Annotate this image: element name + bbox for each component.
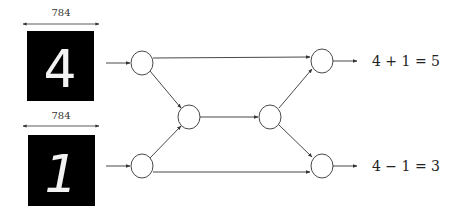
node-D [259,105,281,129]
node-B [131,154,153,178]
node-A [131,51,153,75]
output-equation-sum: 4 + 1 = 5 [372,53,440,69]
dimension-label-top: 784 [51,7,70,18]
output-equation-difference: 4 − 1 = 3 [372,158,440,174]
edge-D-to-F [279,125,312,157]
node-E [311,49,333,73]
input-top-group: 784 4 [23,7,99,101]
edge-D-to-E [279,69,312,108]
edge-A-to-E [153,57,310,58]
dimension-label-bottom: 784 [51,110,70,121]
node-C [178,105,200,129]
nodes [131,49,333,178]
network-diagram: 784 4 784 1 4 + 1 = 5 4 − 1 = 3 [0,0,458,219]
digit-four: 4 [43,39,76,99]
input-bottom-group: 784 1 [23,110,99,206]
node-F [311,154,333,178]
edge-B-to-C [150,126,181,158]
digit-one: 1 [44,144,77,204]
edge-A-to-C [150,71,181,108]
